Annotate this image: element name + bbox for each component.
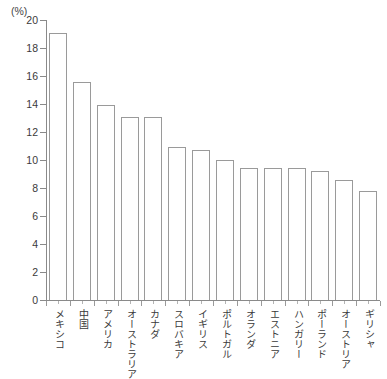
x-axis-category-label: ポーランド [315,309,326,359]
y-axis-tick-label: 12 [0,127,38,138]
x-axis-tick-minor [58,301,59,304]
y-axis-tick-label: 4 [0,239,38,250]
x-axis-tick-minor [177,301,178,304]
y-axis-tick [40,216,46,217]
x-axis-tick-minor [106,301,107,304]
x-axis-tick [141,301,142,306]
bar [264,168,282,300]
y-axis-tick [40,272,46,273]
x-axis-tick-minor [249,301,250,304]
x-axis-tick [213,301,214,306]
x-axis-tick-minor [320,301,321,304]
y-axis-tick-label: 6 [0,211,38,222]
x-axis-category-label: ギリシャ [363,309,374,349]
x-axis-tick [165,301,166,306]
bar [73,82,91,300]
bar-chart: (%) 20181614121086420 メキシコ中国アメリカオーストラリアカ… [0,0,387,379]
x-axis-tick-minor [225,301,226,304]
bar [359,191,377,300]
y-axis-line [46,20,47,301]
y-axis-tick [40,188,46,189]
bar [311,171,329,300]
x-axis-tick [261,301,262,306]
y-axis-tick-label: 0 [0,295,38,306]
bar [216,160,234,300]
x-axis-tick-minor [130,301,131,304]
x-axis-category-label: オーストリア [339,309,350,369]
x-axis-tick [118,301,119,306]
y-axis-tick-label: 18 [0,43,38,54]
bar [49,33,67,300]
x-axis-category-label: カナダ [148,309,159,339]
y-axis-tick [40,104,46,105]
bar [192,150,210,300]
x-axis-tick [332,301,333,306]
bar [288,168,306,300]
y-axis-tick [40,132,46,133]
x-axis-category-label: オランダ [244,309,255,349]
x-axis-category-label: エストニア [268,309,279,359]
x-axis-category-label: ハンガリー [292,309,303,359]
y-axis-tick [40,160,46,161]
x-axis-tick-minor [153,301,154,304]
x-axis-tick [46,301,47,306]
x-axis-tick [285,301,286,306]
x-axis-category-label: メキシコ [53,309,64,349]
y-axis-tick-label: 8 [0,183,38,194]
x-axis-tick-minor [273,301,274,304]
x-axis-tick [308,301,309,306]
x-axis-tick-minor [82,301,83,304]
x-axis-category-label: スロバキア [172,309,183,359]
x-axis-category-label: 中国 [77,309,88,329]
x-axis-tick-minor [368,301,369,304]
x-axis-tick [70,301,71,306]
x-axis-category-label: アメリカ [101,309,112,349]
x-axis-category-label: イギリス [196,309,207,349]
bar [144,117,162,300]
x-axis-tick [380,301,381,306]
y-axis-tick-label: 2 [0,267,38,278]
y-axis-tick-label: 16 [0,71,38,82]
y-axis-tick [40,48,46,49]
x-axis-tick-minor [201,301,202,304]
bar [97,105,115,300]
x-axis-tick-minor [297,301,298,304]
x-axis-category-label: ポルトガル [220,309,231,359]
y-axis-tick [40,76,46,77]
x-axis-tick [356,301,357,306]
bar [240,168,258,300]
y-axis-tick [40,244,46,245]
x-axis-tick [237,301,238,306]
bar [168,147,186,300]
x-axis-tick [94,301,95,306]
y-axis-tick-label: 20 [0,15,38,26]
y-axis-tick-label: 14 [0,99,38,110]
y-axis-tick [40,20,46,21]
x-axis-tick [189,301,190,306]
y-axis-tick-label: 10 [0,155,38,166]
x-axis-category-label: オーストラリア [125,309,136,379]
x-axis-tick-minor [344,301,345,304]
bar [335,180,353,300]
bar [121,117,139,300]
